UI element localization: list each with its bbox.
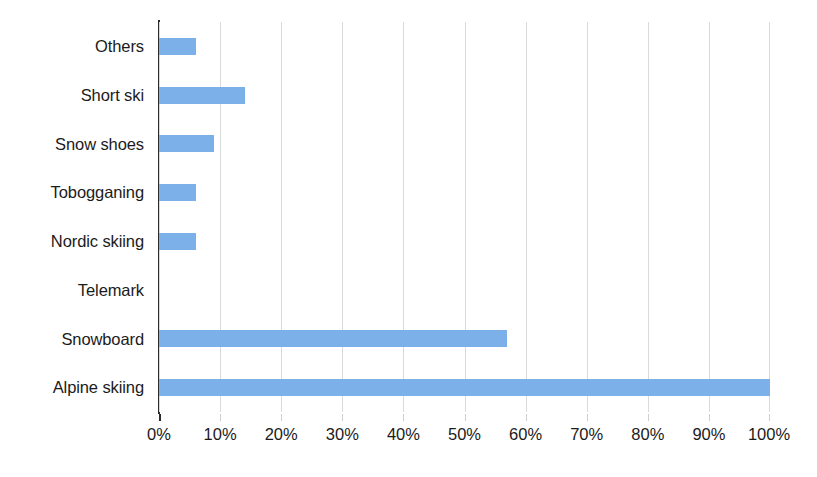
- category-label-text: Alpine skiing: [53, 379, 144, 396]
- value-tick-label: 40%: [387, 426, 420, 443]
- category-label-text: Short ski: [81, 87, 144, 104]
- category-label-snowboard: Snowboard: [0, 315, 153, 364]
- value-tick-label: 100%: [748, 426, 790, 443]
- value-tick-mark: [526, 414, 527, 421]
- category-axis: Others Short ski Snow shoes Tobogganing …: [0, 22, 153, 412]
- bar-chart: Others Short ski Snow shoes Tobogganing …: [0, 0, 817, 477]
- value-tick-label: 80%: [631, 426, 664, 443]
- value-tick-label: 20%: [265, 426, 298, 443]
- category-label-telemark: Telemark: [0, 266, 153, 315]
- value-tick-label: 50%: [448, 426, 481, 443]
- value-tick-mark: [220, 414, 221, 421]
- category-label-alpine-skiing: Alpine skiing: [0, 363, 153, 412]
- value-tick-label: 90%: [692, 426, 725, 443]
- bar[interactable]: [159, 135, 214, 152]
- value-tick-mark: [159, 414, 161, 421]
- value-tick-label: 30%: [326, 426, 359, 443]
- value-axis: 0%10%20%30%40%50%60%70%80%90%100%: [159, 414, 770, 444]
- bar-row: [159, 71, 770, 120]
- bar-row: [159, 266, 770, 315]
- bar-row: [159, 22, 770, 71]
- bar[interactable]: [159, 330, 507, 347]
- category-label-nordic-skiing: Nordic skiing: [0, 217, 153, 266]
- plot-area: [159, 22, 770, 412]
- category-label-text: Telemark: [78, 282, 144, 299]
- category-label-snow-shoes: Snow shoes: [0, 120, 153, 169]
- bar[interactable]: [159, 184, 196, 201]
- value-tick-mark: [648, 414, 649, 421]
- bar[interactable]: [159, 379, 770, 396]
- bar-row: [159, 363, 770, 412]
- category-label-text: Nordic skiing: [51, 233, 144, 250]
- bar-row: [159, 217, 770, 266]
- bar[interactable]: [159, 38, 196, 55]
- value-tick-label: 10%: [204, 426, 237, 443]
- category-label-text: Snowboard: [61, 331, 144, 348]
- value-tick-mark: [403, 414, 404, 421]
- value-tick-mark: [342, 414, 343, 421]
- bar-row: [159, 315, 770, 364]
- value-tick-mark: [465, 414, 466, 421]
- value-tick-mark: [709, 414, 710, 421]
- value-tick-mark: [281, 414, 282, 421]
- bar-row: [159, 120, 770, 169]
- bar[interactable]: [159, 233, 196, 250]
- bar[interactable]: [159, 87, 245, 104]
- value-tick-label: 60%: [509, 426, 542, 443]
- value-tick-label: 70%: [570, 426, 603, 443]
- category-label-short-ski: Short ski: [0, 71, 153, 120]
- bar-row: [159, 168, 770, 217]
- bars-layer: [159, 22, 770, 412]
- category-label-text: Others: [95, 38, 144, 55]
- value-tick-mark: [769, 414, 770, 421]
- category-label-text: Tobogganing: [51, 184, 144, 201]
- value-tick-mark: [587, 414, 588, 421]
- category-label-others: Others: [0, 22, 153, 71]
- category-label-tobogganing: Tobogganing: [0, 168, 153, 217]
- value-tick-label: 0%: [147, 426, 171, 443]
- category-label-text: Snow shoes: [55, 136, 144, 153]
